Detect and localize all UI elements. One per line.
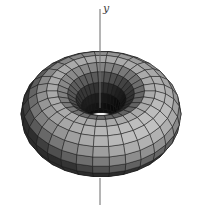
figure-canvas: y: [0, 0, 199, 212]
y-axis-label: y: [103, 3, 109, 14]
torus-3d-plot: [0, 0, 199, 212]
